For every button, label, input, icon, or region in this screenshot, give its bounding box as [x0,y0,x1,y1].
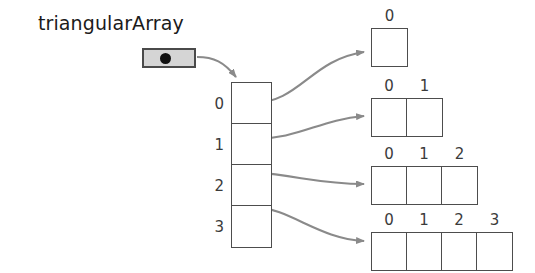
outer-array-index-2: 2 [206,177,224,195]
arrow-pointer-to-outer-array [197,57,236,77]
variable-name-label: triangularArray [38,12,184,34]
triangular-array-diagram: triangularArray 0 1 2 3 0 0 1 [0,0,535,273]
outer-array-cell: 3 [232,206,271,247]
outer-array-index-3: 3 [206,218,224,236]
outer-array-cell: 2 [232,165,271,206]
row-array-2: 0 1 2 [371,166,478,205]
row-3-index-0: 0 [372,211,406,229]
row-array-0: 0 [371,28,408,67]
row-2-cell-1: 1 [407,167,442,204]
row-0-index-0: 0 [372,7,407,25]
filled-dot-reference-icon [160,53,171,64]
outer-array-index-0: 0 [206,95,224,113]
outer-array-cell: 1 [232,124,271,165]
row-3-cell-3: 3 [477,233,512,270]
row-1-index-1: 1 [407,77,442,95]
row-3-index-2: 2 [442,211,476,229]
row-3-index-3: 3 [477,211,512,229]
row-0-cell-0: 0 [372,29,407,66]
row-1-cell-0: 0 [372,99,407,136]
row-2-index-2: 2 [442,145,477,163]
outer-array: 0 1 2 3 [231,82,272,248]
outer-array-index-1: 1 [206,136,224,154]
row-3-index-1: 1 [407,211,441,229]
row-2-index-1: 1 [407,145,441,163]
row-3-cell-1: 1 [407,233,442,270]
row-3-cell-2: 2 [442,233,477,270]
outer-array-cell: 0 [232,83,271,124]
row-2-index-0: 0 [372,145,406,163]
reference-pointer-box [142,48,196,68]
row-2-cell-2: 2 [442,167,477,204]
row-1-cell-1: 1 [407,99,442,136]
row-array-1: 0 1 [371,98,443,137]
row-array-3: 0 1 2 3 [371,232,513,271]
row-3-cell-0: 0 [372,233,407,270]
row-1-index-0: 0 [372,77,406,95]
row-2-cell-0: 0 [372,167,407,204]
